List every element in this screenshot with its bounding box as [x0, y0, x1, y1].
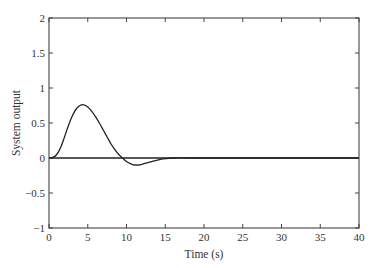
x-tick-labels: 0510152025303540	[46, 231, 365, 243]
y-tick-label: −0.5	[25, 187, 45, 199]
y-tick-label: 1.5	[31, 47, 45, 59]
y-tick-label: 2	[40, 12, 46, 24]
y-tick-label: −1	[33, 222, 45, 234]
x-tick-label: 30	[276, 231, 288, 243]
x-axis-label: Time (s)	[185, 248, 224, 261]
y-tick-label: 1	[40, 82, 46, 94]
plot-frame	[49, 18, 359, 228]
x-tick-label: 5	[85, 231, 91, 243]
ticks-layer	[49, 18, 359, 228]
y-tick-labels: −1−0.500.511.52	[25, 12, 45, 234]
series-layer	[49, 105, 359, 165]
x-tick-label: 20	[199, 231, 211, 243]
y-tick-label: 0	[40, 152, 46, 164]
chart: 0510152025303540 −1−0.500.511.52 Time (s…	[0, 0, 381, 268]
x-tick-label: 40	[354, 231, 366, 243]
x-tick-label: 15	[160, 231, 172, 243]
x-tick-label: 25	[237, 231, 249, 243]
x-tick-label: 35	[315, 231, 327, 243]
y-axis-label: System output	[10, 89, 23, 156]
x-tick-label: 10	[121, 231, 133, 243]
y-tick-label: 0.5	[31, 117, 45, 129]
series-line-system-output	[49, 105, 359, 165]
x-tick-label: 0	[46, 231, 52, 243]
